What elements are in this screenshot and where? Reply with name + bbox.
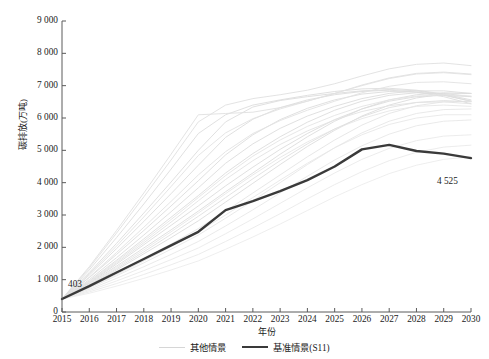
other-scenario-path bbox=[62, 90, 471, 299]
y-axis-ticks bbox=[62, 21, 66, 312]
data-point-label: 4 525 bbox=[437, 176, 458, 186]
y-axis-tick-label: 3 000 bbox=[10, 210, 58, 219]
legend-swatch-other-icon bbox=[159, 347, 185, 348]
legend-label-other: 其他情景 bbox=[190, 340, 226, 354]
plot-area bbox=[0, 0, 489, 359]
other-scenario-path bbox=[62, 135, 471, 299]
data-point-label: 403 bbox=[68, 279, 82, 289]
chart-legend: 其他情景 基准情景(S11) bbox=[0, 340, 489, 354]
x-axis-ticks bbox=[62, 308, 471, 312]
y-axis-title: 碳排放(万吨) bbox=[16, 65, 29, 185]
legend-item-other: 其他情景 bbox=[159, 340, 226, 354]
x-axis-title: 年份 bbox=[62, 325, 472, 338]
y-axis-tick-label: 1 000 bbox=[10, 275, 58, 284]
legend-label-baseline: 基准情景(S11) bbox=[273, 340, 329, 354]
other-scenario-lines bbox=[62, 63, 471, 299]
legend-swatch-baseline-icon bbox=[242, 346, 268, 348]
carbon-emission-scenario-chart: 01 0002 0003 0004 0005 0006 0007 0008 00… bbox=[0, 0, 489, 359]
y-axis-tick-label: 8 000 bbox=[10, 48, 58, 57]
y-axis-tick-label: 2 000 bbox=[10, 242, 58, 251]
other-scenario-path bbox=[62, 157, 471, 299]
y-axis-tick-label: 9 000 bbox=[10, 16, 58, 25]
other-scenario-path bbox=[62, 63, 471, 299]
legend-item-baseline: 基准情景(S11) bbox=[242, 340, 329, 354]
other-scenario-path bbox=[62, 73, 471, 299]
x-axis-tick-label: 2030 bbox=[451, 314, 489, 324]
other-scenario-path bbox=[62, 90, 471, 299]
